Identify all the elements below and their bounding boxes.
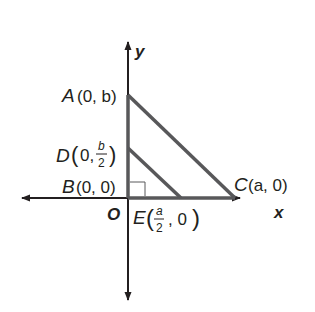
right-angle-marker [130,182,145,196]
point-b-label: B (0, 0) [62,176,116,197]
svg-text:E: E [133,207,146,228]
svg-text:, 0: , 0 [168,210,187,229]
point-d-label: D ( 0, b 2 ) [56,139,116,170]
svg-text:(: ( [71,142,79,167]
point-c-label: C (a, 0) [234,174,288,195]
point-b-coords: (0, 0) [76,178,116,197]
svg-text:B: B [62,176,75,197]
svg-text:2: 2 [98,156,105,170]
svg-text:): ) [192,204,200,231]
point-a-coords: (0, b) [77,87,117,106]
coordinate-diagram: y x O A (0, b) D ( 0, b 2 ) B (0, 0) C (… [0,0,315,312]
svg-text:D: D [56,145,70,166]
origin-label: O [107,205,120,224]
svg-text:0,: 0, [80,146,94,165]
point-a-label: A (0, b) [61,85,117,106]
x-axis-label: x [273,203,285,222]
svg-text:(: ( [146,204,154,231]
svg-text:a: a [156,204,163,218]
svg-text:): ) [109,142,116,167]
point-e-label: E ( a 2 , 0 ) [133,204,200,235]
svg-text:b: b [98,139,105,153]
segment-de [128,148,181,198]
point-c-coords: (a, 0) [248,176,288,195]
y-axis-label: y [134,42,146,61]
svg-text:2: 2 [156,221,163,235]
segment-ac [128,95,235,198]
svg-text:C: C [234,174,248,195]
svg-text:A: A [61,85,75,106]
